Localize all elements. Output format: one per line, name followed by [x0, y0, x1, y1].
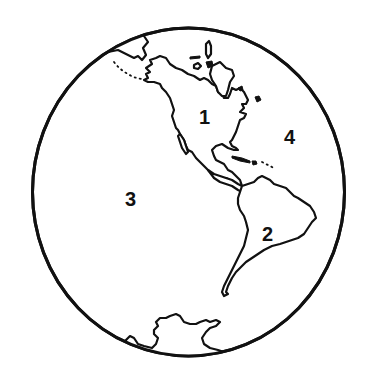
- label-south-america: 2: [262, 224, 273, 244]
- label-pacific-ocean: 3: [125, 189, 136, 209]
- ellesmere-island: [206, 41, 211, 58]
- globe-map: [0, 0, 372, 368]
- label-atlantic-ocean: 4: [284, 127, 295, 147]
- arctic-island-small: [194, 63, 201, 69]
- arctic-island-dash: [190, 56, 200, 59]
- label-north-america: 1: [199, 107, 210, 127]
- hispaniola: [252, 161, 257, 165]
